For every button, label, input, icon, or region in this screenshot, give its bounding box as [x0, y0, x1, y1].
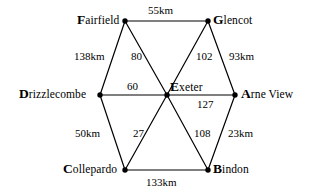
edge-weight-collepardo-exeter: 27	[133, 128, 144, 139]
node-dot-bindon[interactable]	[205, 167, 210, 172]
node-label-arneview: Arne View	[241, 87, 293, 101]
node-label-collepardo: Collepardo	[63, 162, 117, 176]
node-label-arneview-rest: rne View	[251, 88, 293, 100]
node-label-bindon-rest: indon	[222, 163, 249, 175]
node-dot-fairfield[interactable]	[122, 18, 127, 23]
edge-weight-fairfield-glencot: 55km	[148, 5, 173, 16]
node-label-drizzlecombe-rest: rizzlecombe	[29, 88, 86, 100]
node-label-bindon: Bindon	[213, 162, 249, 176]
edge-weight-exeter-arneview: 127	[197, 99, 214, 110]
node-dot-collepardo[interactable]	[122, 167, 127, 172]
edge-weight-glencot-arneview: 93km	[229, 51, 254, 62]
node-label-collepardo-rest: ollepardo	[73, 163, 117, 175]
node-label-glencot-rest: lencot	[224, 14, 253, 26]
node-dot-glencot[interactable]	[205, 18, 210, 23]
edge-weight-drizzlecombe-exeter: 60	[127, 81, 138, 92]
node-label-fairfield-rest: airfield	[85, 14, 119, 26]
edge-weight-collepardo-bindon: 133km	[146, 177, 177, 188]
graph-diagram: Fairfield Glencot Drizzlecombe Exeter Ar…	[0, 0, 329, 194]
node-label-glencot-cap: G	[213, 12, 224, 27]
edge-weight-bindon-arneview: 23km	[228, 128, 253, 139]
edge-weight-fairfield-drizzlecombe: 138km	[74, 51, 105, 62]
node-dot-arneview[interactable]	[232, 92, 237, 97]
edge-weight-glencot-exeter: 102	[196, 51, 213, 62]
node-label-bindon-cap: B	[213, 161, 222, 176]
node-label-glencot: Glencot	[213, 13, 252, 27]
node-label-drizzlecombe: Drizzlecombe	[19, 87, 86, 101]
node-label-fairfield: Fairfield	[77, 13, 119, 27]
node-dot-exeter[interactable]	[164, 92, 169, 97]
edge-weight-fairfield-exeter: 80	[131, 51, 142, 62]
node-label-drizzlecombe-cap: D	[19, 86, 29, 101]
node-dot-drizzlecombe[interactable]	[97, 92, 102, 97]
edge-drizzlecombe-collepardo	[100, 95, 125, 170]
node-label-exeter-rest: xeter	[179, 81, 202, 93]
node-label-arneview-cap: A	[241, 86, 251, 101]
node-label-collepardo-cap: C	[63, 161, 73, 176]
edge-weight-exeter-bindon: 108	[194, 128, 211, 139]
node-label-exeter: Exeter	[170, 80, 203, 94]
edge-collepardo-exeter	[125, 95, 167, 170]
edge-weight-drizzlecombe-collepardo: 50km	[75, 128, 100, 139]
node-label-exeter-cap: E	[170, 79, 179, 94]
